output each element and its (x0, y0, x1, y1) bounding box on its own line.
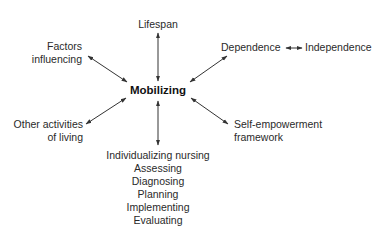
arrow-center-to-factors (88, 56, 127, 82)
dependence-label: Dependence (221, 41, 281, 54)
nursing-line-evaluating: Evaluating (98, 214, 218, 227)
factors-line-2: influencing (10, 53, 82, 66)
arrow-center-to-dependence (190, 56, 227, 82)
nursing-line-planning: Planning (98, 188, 218, 201)
independence-label: Independence (305, 41, 372, 54)
self-empowerment-line-2: framework (234, 131, 322, 144)
nursing-process-label: Individualizing nursing Assessing Diagno… (98, 149, 218, 227)
arrow-center-to-other-activities (86, 98, 126, 124)
self-empowerment-line-1: Self-empowerment (234, 118, 322, 131)
lifespan-label: Lifespan (133, 18, 183, 31)
other-activities-label: Other activities of living (2, 118, 83, 144)
arrow-center-to-self-empowerment (191, 98, 228, 124)
factors-influencing-label: Factors influencing (10, 40, 82, 66)
nursing-line-individualizing: Individualizing nursing (98, 149, 218, 162)
nursing-line-implementing: Implementing (98, 201, 218, 214)
factors-line-1: Factors (10, 40, 82, 53)
self-empowerment-label: Self-empowerment framework (234, 118, 322, 144)
nursing-line-diagnosing: Diagnosing (98, 175, 218, 188)
center-label-mobilizing: Mobilizing (118, 84, 198, 97)
nursing-line-assessing: Assessing (98, 162, 218, 175)
other-activities-line-1: Other activities (2, 118, 83, 131)
other-activities-line-2: of living (2, 131, 83, 144)
